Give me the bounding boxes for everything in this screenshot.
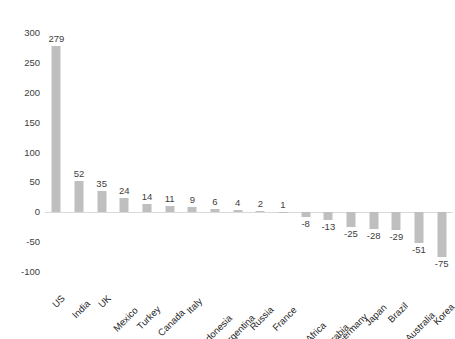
bar-group: 35UK <box>90 0 113 339</box>
bar[interactable] <box>392 212 401 229</box>
x-axis-category-label: Italy <box>185 296 204 315</box>
bar-value-label: -51 <box>412 245 426 255</box>
bar[interactable] <box>142 204 151 212</box>
bar-value-label: 14 <box>142 192 153 202</box>
bar-value-label: 52 <box>74 169 85 179</box>
bar-value-label: 6 <box>212 197 217 207</box>
y-axis-tick-label: 200 <box>24 88 40 98</box>
bar-value-label: 2 <box>258 199 263 209</box>
bar-value-label: -25 <box>344 229 358 239</box>
bar[interactable] <box>120 198 129 212</box>
x-axis-category-label: US <box>51 293 67 309</box>
y-axis-tick-label: 100 <box>24 148 40 158</box>
bar-group: 52India <box>68 0 91 339</box>
bar[interactable] <box>188 207 197 212</box>
bar-value-label: 4 <box>235 198 240 208</box>
y-axis-tick-label: 50 <box>29 177 40 187</box>
bar[interactable] <box>437 212 446 257</box>
x-axis-category-label: India <box>70 299 92 321</box>
bar[interactable] <box>52 46 61 213</box>
bar-group: 279US <box>45 0 68 339</box>
bar-value-label: -29 <box>389 232 403 242</box>
bar-group: -75Korea <box>430 0 453 339</box>
bar[interactable] <box>278 212 287 213</box>
bar[interactable] <box>165 206 174 213</box>
bar-group: 4Argentina <box>226 0 249 339</box>
bar-group: -25Germany <box>340 0 363 339</box>
y-axis-tick-label: -50 <box>26 237 40 247</box>
bar[interactable] <box>346 212 355 227</box>
y-axis-tick-label: 150 <box>24 118 40 128</box>
bar-value-label: 9 <box>190 195 195 205</box>
y-axis-tick-label: -100 <box>21 267 40 277</box>
bar-chart: 300250200150100500-50-100 279US52India35… <box>0 0 455 339</box>
bar-value-label: -13 <box>321 222 335 232</box>
x-axis-category-label: UK <box>96 293 112 309</box>
y-axis: 300250200150100500-50-100 <box>0 0 40 339</box>
bar-group: -51Australia <box>408 0 431 339</box>
bar[interactable] <box>233 210 242 212</box>
bar[interactable] <box>210 209 219 213</box>
bar[interactable] <box>324 212 333 220</box>
bar-value-label: 279 <box>48 34 64 44</box>
bar-group: 1France <box>272 0 295 339</box>
bar-group: -13Saudi Arabia <box>317 0 340 339</box>
bar-group: 9Italy <box>181 0 204 339</box>
x-axis-category-label: Korea <box>431 302 455 327</box>
bar-group: 6Indonesia <box>204 0 227 339</box>
bar-value-label: 35 <box>96 179 107 189</box>
bar[interactable] <box>414 212 423 242</box>
bar-value-label: -28 <box>367 231 381 241</box>
bar-group: 11Canada <box>158 0 181 339</box>
y-axis-tick-label: 0 <box>35 207 40 217</box>
bar-value-label: -8 <box>301 219 309 229</box>
bar[interactable] <box>301 212 310 217</box>
bar-value-label: 1 <box>280 200 285 210</box>
bar[interactable] <box>256 211 265 212</box>
bar[interactable] <box>369 212 378 229</box>
bar-value-label: 11 <box>165 194 175 204</box>
y-axis-tick-label: 250 <box>24 58 40 68</box>
bar-group: 24Mexico <box>113 0 136 339</box>
bar-group: -8South Africa <box>294 0 317 339</box>
bar[interactable] <box>97 191 106 212</box>
y-axis-tick-label: 300 <box>24 28 40 38</box>
plot-area: 279US52India35UK24Mexico14Turkey11Canada… <box>45 0 453 339</box>
bar-group: 2Russia <box>249 0 272 339</box>
bar[interactable] <box>74 181 83 212</box>
bar-value-label: -75 <box>435 259 449 269</box>
bar-group: -28Japan <box>362 0 385 339</box>
bar-group: -29Brazil <box>385 0 408 339</box>
bar-group: 14Turkey <box>136 0 159 339</box>
bar-value-label: 24 <box>119 186 130 196</box>
